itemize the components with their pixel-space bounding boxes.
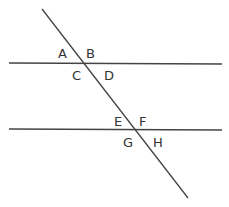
transversal-line [42,9,188,198]
angle-label-a: A [58,46,67,61]
angle-label-e: E [114,114,122,129]
angle-label-b: B [86,46,95,61]
parallel-line-bottom [9,129,222,130]
parallel-line-top [9,63,222,64]
angle-label-f: F [139,114,146,129]
angle-label-c: C [72,68,81,83]
angle-label-d: D [104,68,114,83]
angle-label-h: H [153,135,163,150]
parallel-lines-diagram: A B C D E F G H [0,0,229,207]
angle-label-g: G [123,135,133,150]
